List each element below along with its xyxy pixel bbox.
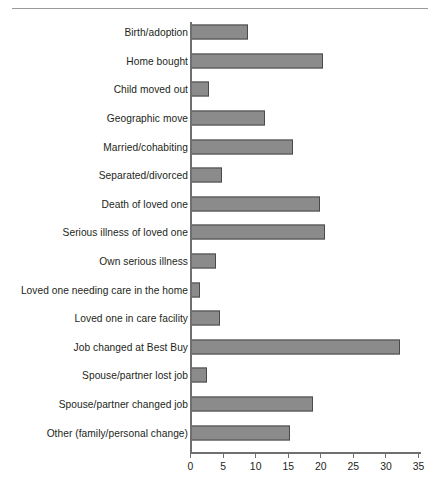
bar-track [191, 111, 265, 126]
bar [191, 82, 209, 97]
bar-category-label: Separated/divorced [99, 170, 188, 181]
x-axis-tick [288, 454, 289, 458]
bar-category-label: Job changed at Best Buy [74, 341, 188, 352]
x-axis-tick [353, 454, 354, 458]
bar-row: Job changed at Best Buy [0, 333, 439, 362]
bar-category-label: Geographic move [107, 113, 188, 124]
bar-category-label: Birth/adoption [124, 27, 188, 38]
bar-track [191, 168, 222, 183]
bar-track [191, 225, 325, 240]
bar-category-label: Spouse/partner lost job [82, 370, 188, 381]
x-axis-tick-label: 5 [220, 461, 226, 472]
x-axis-tick-label: 15 [282, 461, 294, 472]
bar-row: Separated/divorced [0, 161, 439, 190]
bar-row: Loved one needing care in the home [0, 275, 439, 304]
bar-category-label: Serious illness of loved one [63, 227, 188, 238]
bar-row: Death of loved one [0, 190, 439, 219]
bar-category-label: Married/cohabiting [103, 141, 188, 152]
bar-track [191, 397, 313, 412]
bar [191, 339, 400, 354]
bar-row: Married/cohabiting [0, 132, 439, 161]
bar-row: Own serious illness [0, 247, 439, 276]
bar [191, 311, 220, 326]
x-axis-tick [418, 454, 419, 458]
x-axis-tick [255, 454, 256, 458]
x-axis-tick-label: 35 [413, 461, 425, 472]
x-axis-tick-label: 0 [188, 461, 194, 472]
x-axis-tick-label: 20 [315, 461, 327, 472]
bar-track [191, 53, 323, 68]
bar-row: Spouse/partner changed job [0, 390, 439, 419]
bar-track [191, 282, 200, 297]
bar-category-label: Loved one in care facility [75, 313, 188, 324]
bar [191, 397, 313, 412]
bar [191, 168, 222, 183]
x-axis-tick-label: 10 [250, 461, 262, 472]
bar [191, 225, 325, 240]
bar-track [191, 339, 400, 354]
bar-track [191, 311, 220, 326]
bar [191, 53, 323, 68]
bar-row: Home bought [0, 47, 439, 76]
bar-category-label: Child moved out [114, 84, 188, 95]
bar [191, 139, 293, 154]
bar-track [191, 139, 293, 154]
x-axis-tick [385, 454, 386, 458]
bar [191, 254, 216, 269]
bar-track [191, 254, 216, 269]
bar [191, 196, 320, 211]
x-axis-tick [320, 454, 321, 458]
chart-page: Birth/adoptionHome boughtChild moved out… [0, 0, 439, 488]
top-rule-divider [12, 8, 428, 9]
bar-row: Child moved out [0, 75, 439, 104]
x-axis-tick-label: 25 [348, 461, 360, 472]
bar-category-label: Own serious illness [99, 256, 188, 267]
bar-track [191, 25, 248, 40]
bar-category-label: Death of loved one [102, 198, 188, 209]
bar-category-label: Other (family/personal change) [47, 427, 188, 438]
bar [191, 425, 290, 440]
bar [191, 368, 207, 383]
bar [191, 282, 200, 297]
bar [191, 25, 248, 40]
bar-category-label: Spouse/partner changed job [59, 399, 188, 410]
bar-row: Serious illness of loved one [0, 218, 439, 247]
bar-track [191, 82, 209, 97]
bar-rows: Birth/adoptionHome boughtChild moved out… [0, 18, 439, 447]
bar-track [191, 196, 320, 211]
x-axis-tick [190, 454, 191, 458]
bar-row: Spouse/partner lost job [0, 361, 439, 390]
bar-track [191, 368, 207, 383]
x-axis-tick [223, 454, 224, 458]
horizontal-bar-chart: Birth/adoptionHome boughtChild moved out… [0, 18, 439, 480]
bar-row: Birth/adoption [0, 18, 439, 47]
y-axis-line [190, 22, 192, 452]
bar-category-label: Home bought [126, 55, 188, 66]
bar-track [191, 425, 290, 440]
bar [191, 111, 265, 126]
x-axis-tick-label: 30 [380, 461, 392, 472]
bar-row: Other (family/personal change) [0, 418, 439, 447]
bar-category-label: Loved one needing care in the home [21, 284, 188, 295]
bar-row: Loved one in care facility [0, 304, 439, 333]
bar-row: Geographic move [0, 104, 439, 133]
